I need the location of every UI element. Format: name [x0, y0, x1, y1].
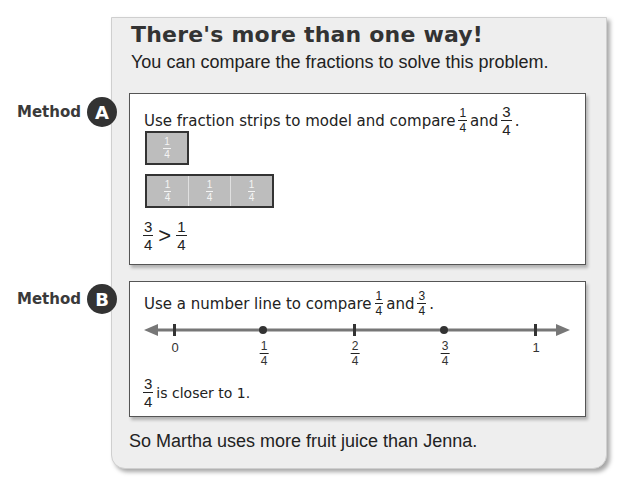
method-b-instruction: Use a number line to compare 14 and 34 . [144, 290, 434, 317]
tick-label-two-quarters: 24 [348, 340, 363, 367]
tick-label-1: 1 [532, 340, 539, 355]
instruction-and: and [386, 295, 414, 313]
panel-title: There's more than one way! [131, 22, 483, 47]
instruction-text: Use a number line to compare [144, 295, 372, 313]
panel-subtitle: You can compare the fractions to solve t… [131, 52, 549, 73]
fraction-strip-three-quarters: 14 14 14 [145, 174, 274, 208]
method-a-badge: A [87, 97, 117, 127]
method-word: Method [17, 290, 81, 308]
fraction-three-quarters: 34 [417, 290, 426, 317]
method-b-box: Use a number line to compare 14 and 34 .… [129, 281, 586, 417]
fraction-one-quarter: 14 [458, 107, 467, 134]
method-b-conclusion: 34 is closer to 1. [140, 376, 250, 409]
method-a-box: Use fraction strips to model and compare… [129, 93, 586, 265]
method-word: Method [17, 103, 81, 121]
method-b-label: Method B [17, 284, 117, 314]
instruction-and: and [470, 112, 498, 130]
arrow-right-icon [556, 324, 570, 336]
tick-label-one-quarter: 14 [257, 340, 272, 367]
method-a-instruction: Use fraction strips to model and compare… [144, 104, 519, 137]
fraction-one-quarter: 14 [375, 290, 384, 317]
summary-text: So Martha uses more fruit juice than Jen… [129, 431, 477, 452]
conclusion-text: is closer to 1. [156, 385, 250, 401]
tick-label-three-quarters: 34 [438, 340, 453, 367]
method-b-badge: B [87, 284, 117, 314]
number-line: 0 14 24 34 1 [142, 318, 572, 378]
tick-label-0: 0 [171, 340, 178, 355]
instruction-text: Use fraction strips to model and compare [144, 112, 455, 130]
greater-than-sign: > [158, 223, 171, 249]
arrow-left-icon [144, 324, 158, 336]
fraction-strip-one-quarter: 14 [145, 131, 189, 165]
fraction-three-quarters: 34 [501, 104, 511, 137]
strip-cell: 14 [189, 176, 231, 206]
comparison-statement: 34 > 14 [140, 219, 190, 252]
strip-cell: 14 [147, 176, 189, 206]
method-a-label: Method A [17, 97, 117, 127]
strip-cell: 14 [231, 176, 272, 206]
strip-cell: 14 [147, 133, 187, 163]
